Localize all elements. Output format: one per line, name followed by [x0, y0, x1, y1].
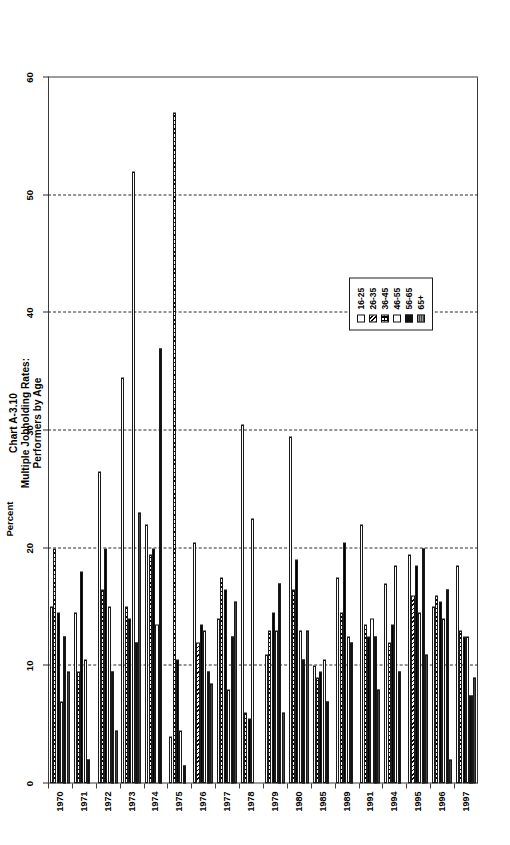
y-axis-label-1970: 1970 [55, 791, 65, 839]
bar-1997-65+ [473, 677, 476, 783]
y-tick-1994 [382, 783, 383, 788]
plot-area: Percent 0102030405060 197019711972197319… [48, 77, 478, 783]
bar-1975-56-65 [183, 765, 186, 783]
x-tick-label-60: 60 [24, 72, 35, 83]
y-axis-label-1973: 1973 [127, 791, 137, 839]
y-axis-label-1989: 1989 [342, 791, 352, 839]
chart-page: Chart A-3.10 Multiple Jobholding Rates: … [0, 0, 510, 845]
legend-label-46-55: 46-55 [392, 287, 402, 309]
legend-label-36-45: 36-45 [380, 287, 390, 309]
y-axis-label-1977: 1977 [222, 791, 232, 839]
legend-label-65+: 65+ [416, 295, 426, 309]
year-group-1973: 1973 [120, 77, 144, 783]
x-tick-label-10: 10 [24, 660, 35, 671]
y-axis-label-1985: 1985 [318, 791, 328, 839]
legend-swatch-65+ [417, 314, 425, 322]
bar-1971-56-65 [87, 759, 90, 783]
y-axis-label-1971: 1971 [79, 791, 89, 839]
year-group-1985: 1985 [311, 77, 335, 783]
bar-1996-65+ [449, 759, 452, 783]
y-tick-1978 [239, 783, 240, 788]
x-axis-title: Percent [4, 501, 15, 536]
chart-figure: Chart A-3.10 Multiple Jobholding Rates: … [0, 0, 510, 845]
year-group-1995: 1995 [406, 77, 430, 783]
bar-1977-65+ [234, 601, 237, 783]
y-axis-label-1991: 1991 [365, 791, 375, 839]
legend-swatch-56-65 [405, 314, 413, 322]
y-tick-1991 [359, 783, 360, 788]
chart-title-line-3: Performers by Age [32, 0, 44, 845]
bar-1991-65+ [377, 689, 380, 783]
y-axis-label-1995: 1995 [413, 791, 423, 839]
legend-item-16-25: 16-25 [355, 287, 367, 322]
year-group-1996: 1996 [430, 77, 454, 783]
y-axis-label-1975: 1975 [174, 791, 184, 839]
y-axis-label-1974: 1974 [150, 791, 160, 839]
bar-1974-56-65 [159, 348, 162, 783]
bar-1994-56-65 [398, 671, 401, 783]
y-tick-1997 [454, 783, 455, 788]
legend-label-16-25: 16-25 [356, 287, 366, 309]
bar-1989-56-65 [350, 642, 353, 783]
bar-1976-65+ [210, 683, 213, 783]
legend-swatch-16-25 [357, 314, 365, 322]
y-tick-1975 [167, 783, 168, 788]
bar-1996-56-65 [446, 589, 449, 783]
year-group-1976: 1976 [191, 77, 215, 783]
y-axis-label-1980: 1980 [294, 791, 304, 839]
rotated-page-content: Chart A-3.10 Multiple Jobholding Rates: … [0, 0, 510, 845]
y-tick-1972 [96, 783, 97, 788]
x-tick-label-0: 0 [24, 780, 35, 785]
year-group-1970: 1970 [48, 77, 72, 783]
bar-1985-56-65 [326, 701, 329, 783]
y-axis-label-1978: 1978 [246, 791, 256, 839]
y-tick-1996 [430, 783, 431, 788]
bar-1995-65+ [425, 654, 428, 783]
year-group-1980: 1980 [287, 77, 311, 783]
y-tick-1980 [287, 783, 288, 788]
year-group-1989: 1989 [335, 77, 359, 783]
year-group-1979: 1979 [263, 77, 287, 783]
y-axis-label-1997: 1997 [461, 791, 471, 839]
year-group-1977: 1977 [215, 77, 239, 783]
year-group-1974: 1974 [144, 77, 168, 783]
bar-1978-46-55 [251, 518, 254, 783]
y-axis-label-1976: 1976 [198, 791, 208, 839]
year-group-1994: 1994 [382, 77, 406, 783]
year-group-1991: 1991 [359, 77, 383, 783]
year-group-1971: 1971 [72, 77, 96, 783]
year-group-1972: 1972 [96, 77, 120, 783]
legend-item-65+: 65+ [415, 287, 427, 322]
legend-item-26-35: 26-35 [367, 287, 379, 322]
year-group-1975: 1975 [167, 77, 191, 783]
legend: 16-2526-3536-4546-5556-6565+ [349, 277, 433, 330]
chart-title-line-2: Multiple Jobholding Rates: [20, 0, 32, 845]
legend-item-46-55: 46-55 [391, 287, 403, 322]
legend-item-36-45: 36-45 [379, 287, 391, 322]
y-tick-1974 [144, 783, 145, 788]
y-tick-1973 [120, 783, 121, 788]
y-tick-1971 [72, 783, 73, 788]
bar-1970-65+ [67, 671, 70, 783]
y-tick-1970 [48, 783, 49, 788]
chart-title-line-1: Chart A-3.10 [8, 0, 20, 845]
legend-label-26-35: 26-35 [368, 287, 378, 309]
y-axis-label-1994: 1994 [389, 791, 399, 839]
bar-1979-65+ [282, 712, 285, 783]
y-tick-1995 [406, 783, 407, 788]
legend-swatch-26-35 [369, 314, 377, 322]
x-tick-label-30: 30 [24, 425, 35, 436]
year-group-1997: 1997 [454, 77, 478, 783]
x-tick-label-50: 50 [24, 189, 35, 200]
y-tick-1989 [335, 783, 336, 788]
chart-title: Chart A-3.10 Multiple Jobholding Rates: … [8, 0, 44, 845]
x-tick-label-40: 40 [24, 307, 35, 318]
bar-1972-65+ [115, 730, 118, 783]
y-tick-1985 [311, 783, 312, 788]
y-tick-1979 [263, 783, 264, 788]
legend-swatch-36-45 [381, 314, 389, 322]
legend-label-56-65: 56-65 [404, 287, 414, 309]
bar-1980-65+ [306, 630, 309, 783]
y-axis-label-1979: 1979 [270, 791, 280, 839]
legend-item-56-65: 56-65 [403, 287, 415, 322]
